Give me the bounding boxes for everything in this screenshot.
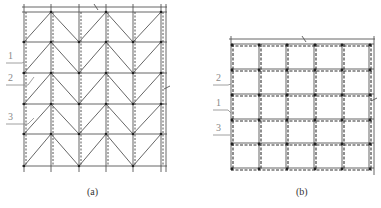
diagram-canvas [0, 0, 381, 208]
figure-b-grid [229, 36, 377, 175]
figure-b-dashes [231, 44, 372, 170]
figure-a-dashes [26, 12, 163, 166]
caption-a: (a) [87, 186, 98, 197]
figure-a-braces [24, 12, 161, 166]
label-b-1: 1 [216, 97, 221, 108]
caption-b: (b) [296, 186, 308, 197]
figure-b-nodes [231, 44, 372, 171]
label-b-3: 3 [216, 122, 221, 133]
label-b-2: 2 [216, 72, 221, 83]
label-a-3: 3 [8, 111, 13, 122]
label-a-1: 1 [8, 50, 13, 61]
label-a-2: 2 [8, 72, 13, 83]
